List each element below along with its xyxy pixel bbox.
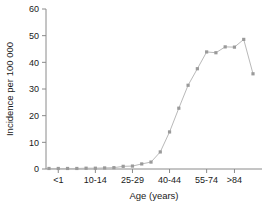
x-tick-label: 55-74: [195, 175, 218, 185]
y-tick-label: 20: [29, 111, 39, 121]
data-point-marker: [233, 46, 236, 49]
x-axis-label: Age (years): [129, 190, 178, 201]
data-point-marker: [94, 167, 97, 170]
data-point-marker: [47, 167, 50, 170]
y-tick-label: 10: [29, 138, 39, 148]
y-axis-ticks: [42, 9, 46, 169]
y-axis-tick-labels: 0102030405060: [29, 4, 39, 174]
data-point-marker: [251, 72, 254, 75]
data-point-marker: [57, 167, 60, 170]
data-point-marker: [112, 166, 115, 169]
x-tick-label: 25-29: [121, 175, 144, 185]
y-tick-label: 40: [29, 58, 39, 68]
data-point-marker: [177, 107, 180, 110]
data-point-marker: [168, 130, 171, 133]
chart-canvas: 0102030405060 <110-1425-2940-4455-74>84 …: [0, 0, 267, 204]
x-tick-label: 10-14: [84, 175, 107, 185]
y-tick-label: 60: [29, 4, 39, 14]
data-point-marker: [242, 38, 245, 41]
x-tick-label: >84: [227, 175, 242, 185]
data-point-marker: [149, 160, 152, 163]
data-point-marker: [75, 167, 78, 170]
x-tick-label: <1: [53, 175, 63, 185]
data-point-marker: [186, 84, 189, 87]
x-axis-tick-labels: <110-1425-2940-4455-74>84: [53, 175, 242, 185]
x-tick-label: 40-44: [158, 175, 181, 185]
data-point-marker: [122, 165, 125, 168]
data-point-marker: [84, 167, 87, 170]
incidence-by-age-chart: 0102030405060 <110-1425-2940-4455-74>84 …: [0, 0, 267, 204]
data-point-marker: [66, 167, 69, 170]
data-point-marker: [140, 162, 143, 165]
data-point-marker: [196, 67, 199, 70]
data-point-marker: [214, 51, 217, 54]
data-point-marker: [224, 45, 227, 48]
data-point-marker: [205, 50, 208, 53]
series-markers-incidence: [47, 38, 254, 170]
data-point-marker: [103, 166, 106, 169]
y-tick-label: 0: [34, 164, 39, 174]
series-line-incidence: [49, 39, 253, 168]
y-tick-label: 50: [29, 31, 39, 41]
data-point-marker: [131, 164, 134, 167]
data-point-marker: [159, 150, 162, 153]
y-axis-label: Incidence per 100 000: [4, 42, 15, 136]
y-tick-label: 30: [29, 84, 39, 94]
